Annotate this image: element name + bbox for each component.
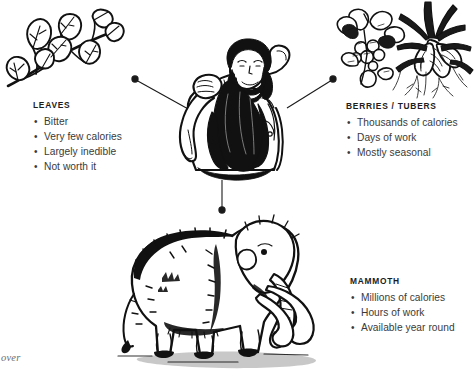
bullet-text: Thousands of calories — [357, 117, 458, 128]
bullet-text: Bitter — [44, 116, 68, 127]
list-item: •Largely inedible — [33, 145, 148, 159]
info-block-berries-tubers: BERRIES / TUBERS •Thousands of calories … — [346, 101, 472, 161]
list-item: •Available year round — [350, 321, 475, 335]
bullet-dot-icon: • — [34, 145, 38, 159]
leafy-branch-icon — [4, 12, 122, 94]
bullet-dot-icon: • — [351, 291, 355, 305]
info-block-leaves: LEAVES •Bitter •Very few calories •Large… — [33, 100, 148, 175]
list-item: •Days of work — [346, 131, 472, 145]
bullet-text: Available year round — [361, 322, 455, 333]
infographic-canvas: LEAVES •Bitter •Very few calories •Large… — [0, 0, 475, 375]
list-item: •Hours of work — [350, 306, 475, 320]
list-item: •Millions of calories — [350, 291, 475, 305]
bullet-text: Millions of calories — [361, 292, 445, 303]
bullet-text: Largely inedible — [44, 146, 116, 157]
list-item: •Thousands of calories — [346, 116, 472, 130]
bullet-dot-icon: • — [347, 146, 351, 160]
woolly-mammoth-icon — [108, 214, 343, 375]
bullet-dot-icon: • — [34, 130, 38, 144]
bullet-text: Hours of work — [361, 307, 425, 318]
list-item: •Very few calories — [33, 130, 148, 144]
info-block-mammoth: MAMMOTH •Millions of calories •Hours of … — [350, 276, 475, 336]
block-title-mammoth: MAMMOTH — [350, 276, 475, 286]
bullet-dot-icon: • — [347, 131, 351, 145]
block-title-berries-tubers: BERRIES / TUBERS — [346, 101, 472, 111]
bullet-dot-icon: • — [34, 115, 38, 129]
bullet-dot-icon: • — [351, 321, 355, 335]
bullet-dot-icon: • — [34, 160, 38, 174]
list-item: •Bitter — [33, 115, 148, 129]
bullet-text: Days of work — [357, 132, 416, 143]
bullet-dot-icon: • — [351, 306, 355, 320]
list-item: •Mostly seasonal — [346, 146, 472, 160]
bullet-text: Very few calories — [44, 131, 122, 142]
caveman-figure-icon — [150, 42, 320, 184]
corner-caption: over — [1, 352, 20, 363]
connector-to-mammoth — [219, 180, 225, 213]
bullet-list-mammoth: •Millions of calories •Hours of work •Av… — [350, 291, 475, 335]
list-item: •Not worth it — [33, 160, 148, 174]
bullet-text: Mostly seasonal — [357, 147, 431, 158]
bullet-dot-icon: • — [347, 116, 351, 130]
root-tuber-icon — [393, 2, 475, 100]
bullet-text: Not worth it — [44, 161, 96, 172]
bullet-list-berries-tubers: •Thousands of calories •Days of work •Mo… — [346, 116, 472, 160]
block-title-leaves: LEAVES — [33, 100, 148, 110]
bullet-list-leaves: •Bitter •Very few calories •Largely ined… — [33, 115, 148, 174]
